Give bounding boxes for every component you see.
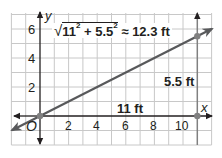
formula-result: ≈ 12.3 ft (118, 24, 170, 39)
foot-point (194, 113, 200, 119)
run-label: 11 ft (117, 102, 143, 115)
x-tick-4: 4 (93, 120, 100, 132)
end-point (194, 33, 200, 39)
y-tick-4: 4 (28, 52, 35, 65)
x-tick-8: 8 (150, 120, 157, 132)
x-tick-6: 6 (122, 120, 129, 132)
origin-label: O (26, 119, 37, 133)
rise-label: 5.5 ft (164, 75, 194, 88)
y-tick-6: 6 (28, 23, 35, 36)
x-tick-2: 2 (65, 120, 72, 132)
y-axis-label: y (45, 9, 52, 22)
origin-point (37, 113, 43, 119)
y-tick-2: 2 (28, 81, 35, 94)
radicand: 112 + 5.52 (62, 22, 118, 39)
x-tick-10: 10 (175, 120, 188, 132)
x-axis-label: x (201, 101, 208, 114)
radical-sign: √ (54, 22, 62, 39)
hypotenuse-formula: √112 + 5.52 ≈ 12.3 ft (52, 23, 172, 38)
